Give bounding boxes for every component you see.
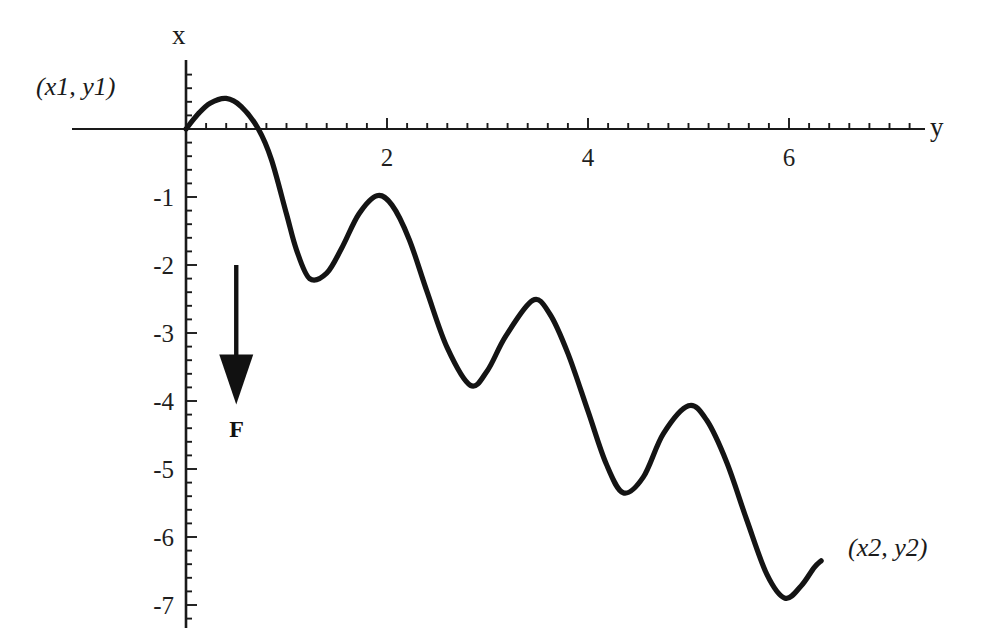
x-axis-tick-label: 2	[381, 145, 394, 170]
force-arrow-icon	[219, 265, 253, 404]
y-axis-tick-label: -6	[153, 525, 174, 550]
end-point-label: (x2, y2)	[848, 535, 927, 561]
y-axis-tick-label: -1	[153, 185, 174, 210]
y-axis-tick-label: -3	[153, 321, 174, 346]
force-arrow-head	[219, 354, 253, 404]
horizontal-axis-label: y	[930, 114, 944, 141]
horizontal-axis-ticks	[206, 118, 910, 129]
x-axis-tick-label: 4	[582, 145, 595, 170]
data-curve	[186, 98, 821, 598]
x-axis-tick-label: 6	[783, 145, 796, 170]
figure-container: x y (x1, y1) (x2, y2) F 246-1-2-3-4-5-6-…	[0, 0, 982, 642]
vertical-axis-ticks	[186, 75, 197, 619]
plot-canvas	[0, 0, 982, 642]
y-axis-tick-label: -2	[153, 253, 174, 278]
y-axis-tick-label: -5	[153, 457, 174, 482]
vertical-axis-label: x	[172, 22, 186, 49]
y-axis-tick-label: -7	[153, 593, 174, 618]
start-point-label: (x1, y1)	[36, 74, 115, 100]
y-axis-tick-label: -4	[153, 389, 174, 414]
force-arrow-label: F	[229, 417, 244, 441]
